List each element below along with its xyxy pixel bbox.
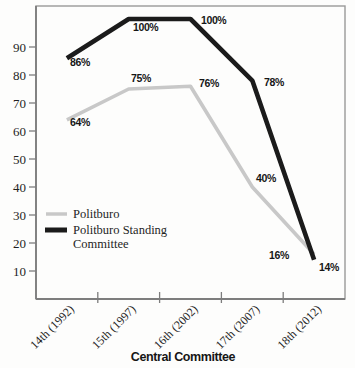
x-axis-category-label-17th-2007: 17th (2007) — [213, 302, 263, 352]
y-axis-tick-label: 40 — [13, 180, 26, 195]
y-axis-tick-label: 50 — [13, 152, 26, 167]
x-axis-category-label-16th-2002: 16th (2002) — [151, 302, 201, 352]
chart-figure: 10203040506070809014th (1992)15th (1997)… — [0, 0, 355, 368]
data-point-label-politburo-standing-committee-14th-1992: 86% — [70, 56, 91, 68]
x-axis-category-label-15th-1997: 15th (1997) — [89, 302, 139, 352]
y-axis-tick-label: 80 — [13, 68, 26, 83]
y-axis-tick-label: 90 — [13, 40, 26, 55]
data-point-label-politburo-18th-2012: 16% — [269, 249, 290, 261]
data-point-label-politburo-standing-committee-15th-1997: 100% — [133, 21, 159, 33]
y-axis-tick-label: 70 — [13, 96, 26, 111]
data-point-label-politburo-standing-committee-17th-2007: 78% — [264, 76, 285, 88]
line-chart: 10203040506070809014th (1992)15th (1997)… — [0, 0, 355, 368]
data-point-label-politburo-standing-committee-18th-2012: 14% — [319, 261, 340, 273]
y-axis-tick-label: 20 — [13, 236, 26, 251]
y-axis-tick-label: 10 — [13, 264, 26, 279]
x-axis-category-label-14th-1992: 14th (1992) — [27, 302, 77, 352]
data-point-label-politburo-16th-2002: 76% — [199, 77, 220, 89]
y-axis-tick-label: 60 — [13, 124, 26, 139]
y-axis-tick-label: 30 — [13, 208, 26, 223]
data-point-label-politburo-17th-2007: 40% — [256, 172, 277, 184]
legend-label-politburo-line1: Politburo — [73, 207, 120, 221]
x-axis-category-label-18th-2012: 18th (2012) — [274, 302, 324, 352]
data-point-label-politburo-15th-1997: 75% — [131, 72, 152, 84]
data-point-label-politburo-14th-1992: 64% — [70, 116, 91, 128]
legend-label-politburo-standing-committee-line2: Committee — [73, 237, 129, 251]
data-point-label-politburo-standing-committee-16th-2002: 100% — [201, 14, 227, 26]
legend-label-politburo-standing-committee-line1: Politburo Standing — [73, 223, 168, 237]
x-axis-title: Central Committee — [131, 350, 236, 364]
